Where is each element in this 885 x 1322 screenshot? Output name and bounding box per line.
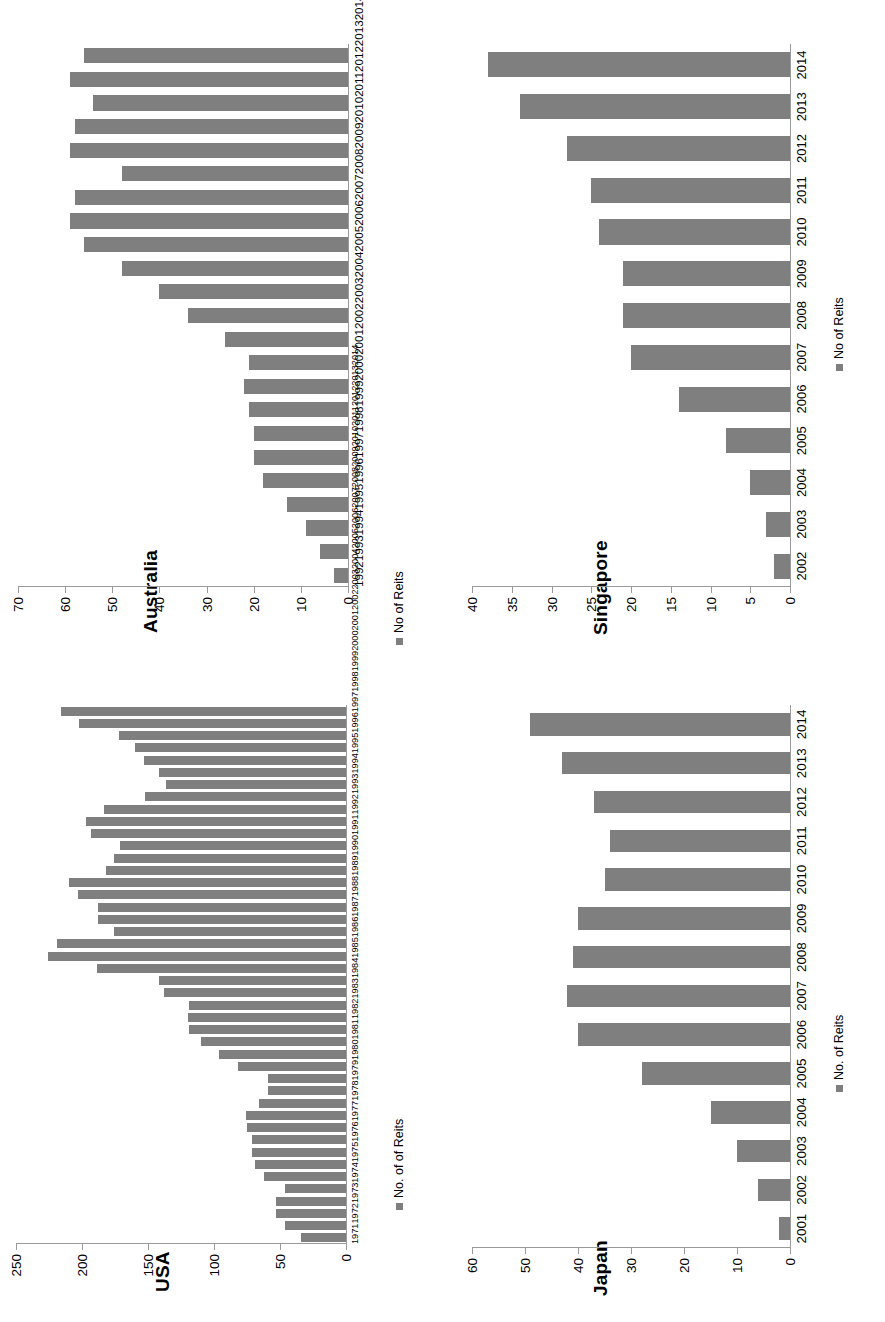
x-tick-label: 1986 (350, 917, 360, 937)
bar (610, 830, 790, 852)
y-tick-label: 50 (518, 1258, 533, 1273)
bar (726, 428, 790, 453)
y-tick-mark (472, 587, 473, 593)
bar (75, 190, 348, 205)
y-tick-label: 30 (624, 1258, 639, 1273)
legend-swatch-icon (836, 1085, 843, 1092)
x-tick-label: 2007 (794, 336, 809, 378)
bar (188, 308, 348, 323)
y-tick-label: 10 (293, 597, 308, 612)
chart-usa: USA 050100150200250 19711972197319741975… (0, 661, 450, 1322)
bar (285, 1184, 346, 1193)
bar (69, 878, 346, 887)
x-tick-label: 2013 (794, 86, 809, 128)
y-tick-mark (346, 1244, 347, 1250)
bar-cell (472, 705, 790, 744)
bar-cell (18, 304, 348, 328)
bar (78, 890, 346, 899)
chart-australia: Australia 010203040506070 19921993199419… (0, 0, 450, 661)
x-tick-label: 1973 (350, 1183, 360, 1203)
x-tick-label: 1999 (350, 651, 360, 671)
bar (276, 1197, 346, 1206)
bar-cell (472, 899, 790, 938)
bar (84, 237, 348, 252)
x-tick-label: 1987 (350, 896, 360, 916)
x-tick-label: 2005 (794, 1054, 809, 1093)
x-tick-label: 1991 (350, 814, 360, 834)
x-tick-labels-singapore: 2002200320042005200620072008200920102011… (794, 44, 809, 587)
bar (573, 946, 790, 968)
legend-label: No of Reits (832, 297, 846, 359)
bar (97, 964, 346, 973)
bar (488, 52, 790, 77)
x-tick-label: 2010 (794, 860, 809, 899)
bar-cell (16, 730, 346, 742)
bar (98, 903, 346, 912)
x-tick-label: 2005 (352, 226, 365, 252)
bar (98, 915, 346, 924)
y-tick-label: 20 (624, 597, 639, 612)
bar (599, 219, 790, 244)
x-tick-label: 1980 (350, 1039, 360, 1059)
x-tick-label: 2008 (352, 148, 365, 174)
y-tick-label: 10 (730, 1258, 745, 1273)
x-tick-label: 2004 (794, 1093, 809, 1132)
bar-cell (16, 754, 346, 766)
x-tick-label: 1984 (350, 958, 360, 978)
bar-cell (16, 1085, 346, 1097)
x-tick-label: 1989 (350, 855, 360, 875)
y-tick-label: 30 (544, 597, 559, 612)
bar-cell (16, 889, 346, 901)
bar-cell (16, 962, 346, 974)
y-tick-mark (631, 1248, 632, 1254)
y-tick-mark (512, 587, 513, 593)
legend-label: No of Reits (392, 571, 406, 633)
bar-cell (18, 44, 348, 68)
bar-cell (16, 1171, 346, 1183)
bar (104, 805, 346, 814)
x-tick-label: 1972 (350, 1203, 360, 1223)
x-tick-label: 1983 (350, 978, 360, 998)
bar (623, 303, 790, 328)
y-tick-mark (280, 1244, 281, 1250)
bar-cell (16, 1073, 346, 1085)
y-tick-mark (591, 587, 592, 593)
bar-cell (472, 744, 790, 783)
bar-cell (16, 840, 346, 852)
y-tick-label: 25 (584, 597, 599, 612)
y-tick-mark (82, 1244, 83, 1250)
bar-cell (18, 186, 348, 210)
plot-area-australia (18, 44, 349, 587)
x-tick-label: 1979 (350, 1060, 360, 1080)
y-tick-mark (348, 587, 349, 593)
bar-cell (472, 860, 790, 899)
bar-cell (16, 815, 346, 827)
bar (567, 985, 790, 1007)
y-tick-label: 250 (9, 1254, 24, 1277)
x-tick-label: 2010 (352, 97, 365, 123)
bar-cell (16, 1060, 346, 1072)
bar-cell (18, 280, 348, 304)
bar-cell (16, 950, 346, 962)
x-tick-label: 1995 (350, 733, 360, 753)
bar (57, 939, 346, 948)
x-tick-label: 2004 (350, 549, 360, 569)
x-tick-label: 1981 (350, 1019, 360, 1039)
bar (758, 1179, 790, 1201)
bar-cell (472, 938, 790, 977)
y-tick-label: 20 (677, 1258, 692, 1273)
bar (70, 143, 348, 158)
x-tick-label: 1993 (350, 774, 360, 794)
bar-cell (472, 977, 790, 1016)
x-tick-label: 1992 (350, 794, 360, 814)
bar (268, 1074, 346, 1083)
bar (122, 261, 348, 276)
bar (166, 780, 346, 789)
bar-cell (16, 742, 346, 754)
bar-cell (18, 162, 348, 186)
bar (276, 1209, 346, 1218)
bar-cell (16, 852, 346, 864)
bar (201, 1037, 346, 1046)
y-tick-label: 30 (199, 597, 214, 612)
bar (225, 332, 348, 347)
